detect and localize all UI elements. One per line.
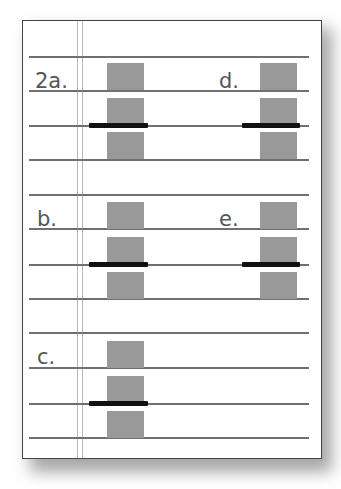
gray-block-middle [107, 376, 144, 403]
black-bar [89, 401, 148, 406]
black-bar [89, 262, 148, 267]
margin-line-right [82, 21, 83, 458]
item-label: d. [219, 71, 239, 92]
gray-block-middle [260, 98, 297, 125]
black-bar [89, 123, 148, 128]
rule-line [29, 194, 309, 196]
gray-block-top [107, 341, 144, 368]
gray-block-bottom [107, 132, 144, 159]
gray-block-top [107, 63, 144, 90]
rule-line [29, 90, 309, 92]
black-bar [242, 123, 300, 128]
rule-line [29, 332, 309, 334]
margin-line-left [77, 21, 78, 458]
gray-block-middle [107, 237, 144, 264]
notebook-page: 2a. d. b. e. c. [22, 20, 322, 459]
item-label: 2a. [35, 71, 68, 92]
gray-block-bottom [260, 272, 297, 299]
rule-line [29, 367, 309, 369]
item-label: b. [37, 209, 57, 230]
rule-line [29, 403, 309, 405]
rule-line [29, 159, 309, 161]
gray-block-bottom [107, 272, 144, 299]
rule-line [29, 437, 309, 439]
gray-block-top [260, 63, 297, 90]
gray-block-bottom [107, 411, 144, 438]
gray-block-bottom [260, 132, 297, 159]
rule-line [29, 56, 309, 58]
gray-block-top [107, 202, 144, 229]
item-label: e. [219, 209, 239, 230]
gray-block-middle [107, 98, 144, 125]
item-label: c. [37, 347, 55, 368]
gray-block-top [260, 202, 297, 229]
gray-block-middle [260, 237, 297, 264]
black-bar [242, 262, 300, 267]
